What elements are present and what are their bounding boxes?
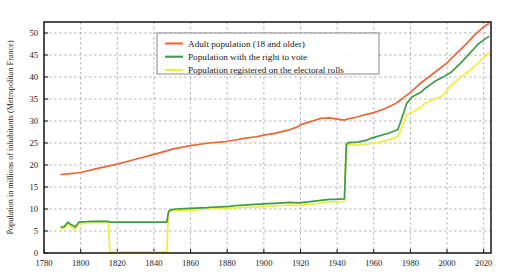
x-tick-label: 1880 <box>219 258 236 268</box>
y-tick-label: 0 <box>34 248 38 258</box>
y-tick-label: 5 <box>34 226 38 236</box>
chart-canvas: 1780180018201840186018801900192019401960… <box>0 0 516 280</box>
x-tick-label: 1980 <box>402 258 419 268</box>
y-tick-label: 30 <box>29 116 38 126</box>
y-tick-label: 25 <box>29 138 38 148</box>
x-tick-label: 1920 <box>292 258 309 268</box>
y-tick-label: 35 <box>29 94 38 104</box>
x-tick-label: 1960 <box>365 258 382 268</box>
y-tick-label: 15 <box>29 182 38 192</box>
x-tick-label: 2000 <box>438 258 455 268</box>
x-axis-tick-labels: 1780180018201840186018801900192019401960… <box>35 258 492 268</box>
y-tick-label: 45 <box>29 50 38 60</box>
chart-legend: Adult population (18 and older)Populatio… <box>157 33 379 75</box>
x-tick-label: 1940 <box>329 258 346 268</box>
legend-label-3: Population registered on the electoral r… <box>188 65 344 75</box>
x-tick-label: 1780 <box>35 258 52 268</box>
chart-figure: 1780180018201840186018801900192019401960… <box>0 0 516 280</box>
legend-label-1: Adult population (18 and older) <box>188 39 305 49</box>
x-tick-label: 1900 <box>255 258 272 268</box>
legend-label-2: Population with the right to vote <box>188 52 307 62</box>
x-tick-label: 1800 <box>72 258 89 268</box>
x-tick-label: 2020 <box>475 258 492 268</box>
x-tick-label: 1860 <box>182 258 199 268</box>
y-axis-title-text: Population in millions of inhabitants (M… <box>6 40 15 234</box>
x-tick-label: 1840 <box>145 258 162 268</box>
y-tick-label: 40 <box>29 72 38 82</box>
y-tick-label: 20 <box>29 160 38 170</box>
x-tick-label: 1820 <box>109 258 126 268</box>
y-tick-label: 50 <box>29 28 38 38</box>
y-axis-tick-labels: 05101520253035404550 <box>29 28 38 258</box>
y-axis-title: Population in millions of inhabitants (M… <box>6 40 15 234</box>
y-tick-label: 10 <box>29 204 38 214</box>
